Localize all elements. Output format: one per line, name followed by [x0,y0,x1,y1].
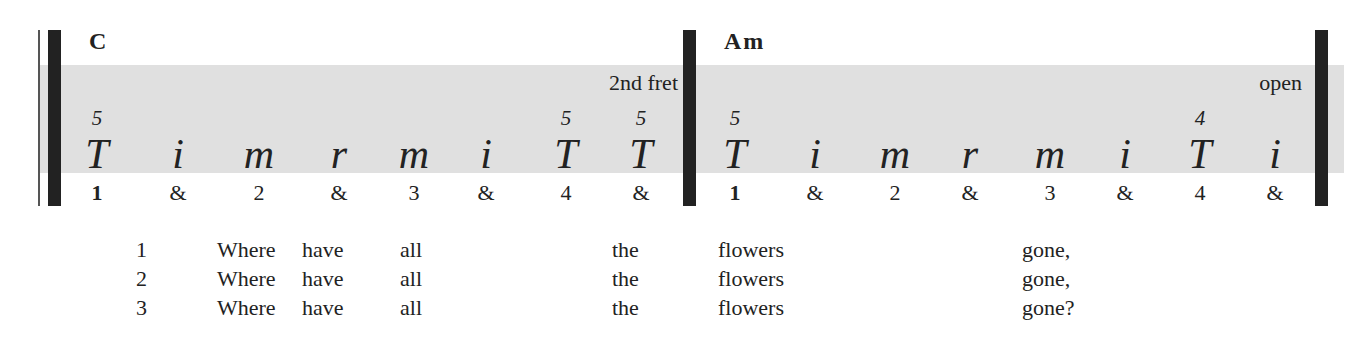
finger-symbol: i [456,132,516,176]
finger-symbol: i [1245,132,1305,176]
fret-number: 5 [611,108,671,128]
beat-count: & [1095,180,1155,206]
finger-symbol: m [229,132,289,176]
lyric-word: all [400,237,422,263]
fret-number: 5 [536,108,596,128]
finger-symbol: i [1095,132,1155,176]
beat-count: & [148,180,208,206]
lyric-word: all [400,266,422,292]
lyric-word: flowers [718,295,784,321]
lyric-word: Where [217,237,276,263]
lyric-word: have [302,295,344,321]
lyric-word: gone? [1022,295,1075,321]
lyric-word: Where [217,266,276,292]
beat-count: & [940,180,1000,206]
finger-symbol: T [1170,132,1230,176]
lyric-word: flowers [718,237,784,263]
chord-label-measure-2: Am [724,28,765,55]
verse-number: 3 [136,295,147,321]
beat-count: & [456,180,516,206]
lyric-word: Where [217,295,276,321]
beat-count: & [611,180,671,206]
finger-symbol: m [384,132,444,176]
position-label-measure-1: 2nd fret [609,70,678,96]
finger-symbol: r [309,132,369,176]
lyric-word: all [400,295,422,321]
beat-count: 4 [536,180,596,206]
barline-start [48,30,61,206]
lyric-word: have [302,266,344,292]
beat-count: 2 [865,180,925,206]
verse-number: 1 [136,237,147,263]
finger-symbol: i [148,132,208,176]
beat-count: 1 [67,180,127,206]
beat-count: 2 [229,180,289,206]
lyric-word: the [612,295,639,321]
fret-number: 4 [1170,108,1230,128]
finger-symbol: T [611,132,671,176]
fret-number: 5 [705,108,765,128]
fret-number: 5 [67,108,127,128]
lyric-word: the [612,237,639,263]
beat-count: & [785,180,845,206]
lyric-word: the [612,266,639,292]
finger-symbol: m [1020,132,1080,176]
finger-symbol: i [785,132,845,176]
chord-label-measure-1: C [89,28,106,55]
finger-symbol: T [67,132,127,176]
double-barline-thin [38,30,40,206]
finger-symbol: T [705,132,765,176]
beat-count: 1 [705,180,765,206]
finger-symbol: T [536,132,596,176]
finger-symbol: r [940,132,1000,176]
beat-count: 3 [1020,180,1080,206]
lyric-word: flowers [718,266,784,292]
beat-count: 3 [384,180,444,206]
beat-count: & [1245,180,1305,206]
barline-end [1315,30,1328,206]
lyric-word: gone, [1022,266,1070,292]
barline-middle [683,30,696,206]
lyric-word: gone, [1022,237,1070,263]
finger-symbol: m [865,132,925,176]
position-label-measure-2: open [1259,70,1302,96]
beat-count: & [309,180,369,206]
verse-number: 2 [136,266,147,292]
beat-count: 4 [1170,180,1230,206]
lyric-word: have [302,237,344,263]
